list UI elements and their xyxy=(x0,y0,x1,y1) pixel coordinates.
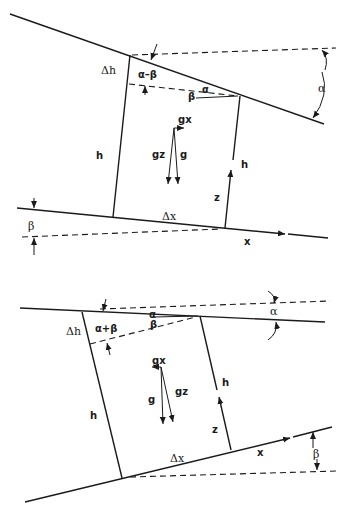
label-h-left: h xyxy=(96,150,103,161)
bottom-right-wall-upper xyxy=(200,316,217,390)
bottom-left-wall-line xyxy=(82,312,122,478)
top-panel: Δh α–β α β α gx gz g h h z Δx β x xyxy=(10,14,336,255)
bottom-panel: Δh α+β α β α gx g gz h h z Δx x β xyxy=(20,291,338,502)
label-alpha-minus-beta: α–β xyxy=(138,69,157,80)
bottom-label-z: z xyxy=(212,424,218,435)
top-bed-line-tail xyxy=(288,234,328,238)
top-bottom-horizontal-dashed xyxy=(22,229,220,237)
bottom-free-surface-line xyxy=(20,308,325,322)
top-right-wall-upper xyxy=(233,96,240,160)
bottom-small-angle-line xyxy=(154,316,198,317)
alpha-arc-lower xyxy=(313,72,325,118)
bottom-label-delta-h: Δh xyxy=(66,325,81,338)
top-horizontal-reference-dashed xyxy=(132,48,336,55)
label-x: x xyxy=(244,236,251,247)
alpha-arrow-up xyxy=(268,322,276,340)
bottom-angle-arrow-up xyxy=(107,343,110,355)
label-alpha-right: α xyxy=(318,82,326,95)
label-h-right: h xyxy=(241,159,248,170)
bottom-x-axis-arrow xyxy=(25,438,290,502)
label-beta-small: β xyxy=(188,91,195,102)
label-gx: gx xyxy=(178,114,192,125)
top-left-wall-line xyxy=(113,55,130,217)
bottom-label-h-right: h xyxy=(222,377,229,388)
gz-arrow xyxy=(168,128,174,184)
label-alpha-plus-beta: α+β xyxy=(95,323,117,334)
bottom-label-gz: gz xyxy=(175,386,188,397)
top-small-angle-line xyxy=(196,96,238,98)
label-z: z xyxy=(214,192,220,203)
top-free-surface-line xyxy=(10,14,324,124)
alpha-arrow-down xyxy=(268,291,274,303)
bottom-horizontal-reference-dashed xyxy=(100,301,330,309)
bottom-label-x: x xyxy=(257,447,264,458)
figure-canvas: Δh α–β α β α gx gz g h h z Δx β x xyxy=(0,0,346,517)
alpha-arc-upper xyxy=(322,50,326,70)
bottom-label-beta-small: β xyxy=(150,319,157,330)
label-delta-x: Δx xyxy=(162,210,177,223)
g-arrow xyxy=(174,128,178,184)
bottom-z-axis-arrow xyxy=(219,397,231,450)
label-g: g xyxy=(180,149,187,160)
label-beta-left: β xyxy=(28,220,34,233)
top-angle-arrow-down xyxy=(151,44,157,60)
bottom-label-alpha-right: α xyxy=(270,305,278,318)
bottom-label-gx: gx xyxy=(152,355,166,366)
bottom-label-beta-right: β xyxy=(313,448,319,461)
label-gz: gz xyxy=(152,149,165,160)
bottom-label-h-left: h xyxy=(90,410,97,421)
bottom-label-g: g xyxy=(148,394,155,405)
label-delta-h: Δh xyxy=(101,64,116,77)
z-axis-arrow xyxy=(225,170,231,228)
label-alpha-small: α xyxy=(202,84,209,95)
bottom-label-delta-x: Δx xyxy=(170,452,185,465)
x-axis-arrow xyxy=(17,208,285,234)
bottom-bottom-horizontal-dashed xyxy=(130,471,338,477)
